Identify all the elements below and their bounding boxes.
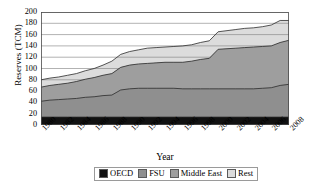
plot-area: [41, 12, 289, 125]
y-tick-label: 160: [0, 31, 37, 39]
y-tick-label: 140: [0, 42, 37, 50]
legend-swatch-icon: [138, 169, 147, 178]
legend-item: OECD: [99, 169, 133, 178]
y-tick-label: 200: [0, 8, 37, 16]
y-tick-label: 80: [0, 76, 37, 84]
legend-item: Rest: [227, 169, 253, 178]
y-tick-label: 100: [0, 65, 37, 73]
legend-label: FSU: [149, 169, 165, 178]
y-tick-label: 40: [0, 98, 37, 106]
y-tick-label: 60: [0, 87, 37, 95]
chart-legend: OECDFSUMiddle EastRest: [94, 167, 258, 181]
legend-label: Middle East: [181, 169, 222, 178]
y-tick-label: 180: [0, 19, 37, 27]
legend-item: Middle East: [170, 169, 222, 178]
y-tick-label: 120: [0, 53, 37, 61]
legend-swatch-icon: [227, 169, 236, 178]
x-axis-tick-labels: 1980198219841986198819901992199419961998…: [41, 126, 289, 154]
chart-canvas: [41, 12, 289, 125]
y-tick-label: 0: [0, 121, 37, 129]
legend-swatch-icon: [170, 169, 179, 178]
y-axis-tick-labels: 020406080100120140160180200: [0, 12, 37, 125]
y-tick-label: 20: [0, 110, 37, 118]
legend-item: FSU: [138, 169, 165, 178]
legend-label: Rest: [238, 169, 253, 178]
legend-swatch-icon: [99, 169, 108, 178]
chart-figure: Reserves (TCM) 0204060801001201401601802…: [0, 0, 313, 191]
legend-label: OECD: [110, 169, 133, 178]
x-tick-label: 2008: [288, 115, 306, 133]
x-axis-title: Year: [41, 152, 289, 162]
stacked-area-plot: [41, 12, 289, 125]
